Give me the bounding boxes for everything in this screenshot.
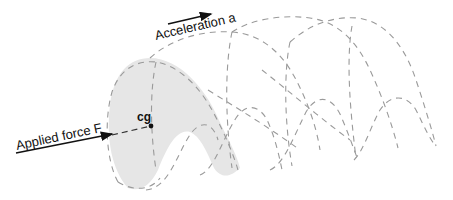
diagram-canvas: Acceleration a Applied force F cg [0,0,453,200]
applied-force-label: Applied force F [15,120,104,153]
cg-point [149,124,154,129]
cg-label: cg [137,110,151,124]
shaded-cross-section [109,58,240,189]
acceleration-label: Acceleration a [153,10,237,43]
